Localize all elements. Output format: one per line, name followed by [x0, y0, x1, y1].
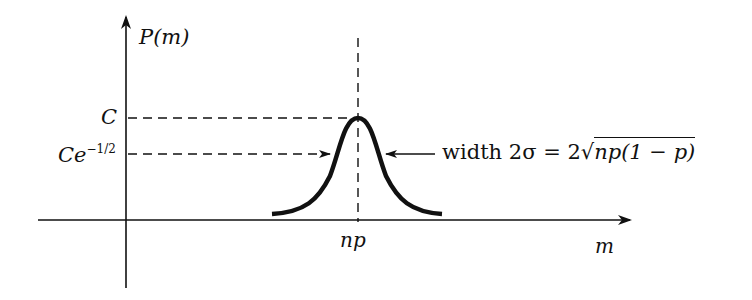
peak-x-label: np [340, 230, 366, 250]
gaussian-curve [272, 118, 442, 214]
width-label-prefix: width 2σ = 2√ [442, 140, 594, 164]
half-level-label-base: Ce [58, 143, 87, 167]
peak-level-label: C [101, 107, 117, 128]
half-level-label-exponent: −1/2 [87, 142, 116, 156]
diagram-canvas: P(m) C Ce−1/2 np m width 2σ = 2√np(1 − p… [0, 0, 752, 300]
y-axis-label: P(m) [139, 27, 189, 48]
y-axis-label-text: P(m) [139, 25, 189, 49]
width-label-sqrt-argument: np(1 − p) [594, 137, 695, 164]
width-label: width 2σ = 2√np(1 − p) [442, 142, 695, 163]
half-level-label: Ce−1/2 [58, 143, 116, 166]
x-axis-label: m [595, 236, 614, 256]
